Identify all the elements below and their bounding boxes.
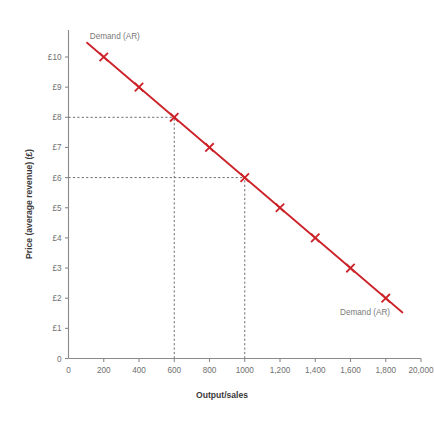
- y-tick-label-1: £1: [52, 324, 62, 333]
- x-tick-label-200: 200: [97, 366, 111, 375]
- x-tick-label-2000: 20,000: [408, 366, 433, 375]
- x-tick-label-400: 400: [132, 366, 146, 375]
- y-tick-label-0: 0: [57, 355, 62, 364]
- y-tick-label-8: £8: [52, 113, 62, 122]
- y-tick-label-10: £10: [48, 53, 62, 62]
- y-tick-label-2: £2: [52, 294, 62, 303]
- y-tick-label-5: £5: [52, 204, 62, 213]
- y-axis-title: Price (average revenue) (£): [24, 149, 34, 259]
- x-axis-title: Output/sales: [196, 390, 248, 400]
- x-tick-label-1800: 1,800: [376, 366, 397, 375]
- series-annotation-1: Demand (AR): [90, 32, 140, 41]
- x-tick-label-600: 600: [167, 366, 181, 375]
- demand-curve-chart: 0£1£2£3£4£5£6£7£8£9£10 02004006008001000…: [0, 0, 434, 422]
- series-annotation-2: Demand (AR): [340, 308, 390, 317]
- x-tick-label-1600: 1,600: [340, 366, 361, 375]
- x-tick-label-0: 0: [66, 366, 71, 375]
- x-tick-label-1200: 1,200: [270, 366, 291, 375]
- y-tick-label-3: £3: [52, 264, 62, 273]
- x-tick-label-1400: 1,400: [305, 366, 326, 375]
- chart-canvas: 0£1£2£3£4£5£6£7£8£9£10 02004006008001000…: [0, 0, 434, 422]
- x-tick-label-1000: 1000: [236, 366, 255, 375]
- y-tick-label-6: £6: [52, 174, 62, 183]
- y-tick-label-4: £4: [52, 234, 62, 243]
- y-tick-label-9: £9: [52, 83, 62, 92]
- x-tick-label-800: 800: [203, 366, 217, 375]
- y-tick-label-7: £7: [52, 143, 62, 152]
